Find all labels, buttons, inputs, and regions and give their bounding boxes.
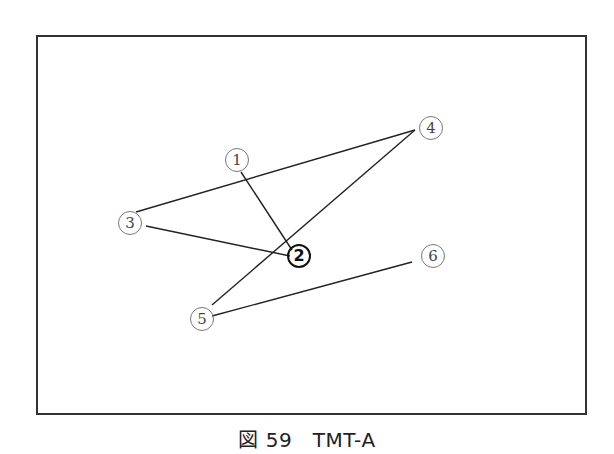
circled-number-5: 5 bbox=[190, 307, 214, 331]
figure-caption: 図 59 TMT-A bbox=[0, 424, 614, 453]
trail-line-1-to-2 bbox=[241, 172, 292, 250]
trail-line-3-to-4 bbox=[136, 130, 415, 212]
circled-number-1: 1 bbox=[225, 148, 249, 172]
trail-diagram bbox=[0, 0, 614, 454]
trail-line-2-to-3 bbox=[146, 226, 290, 256]
tmt-a-figure: 123456 図 59 TMT-A bbox=[0, 0, 614, 454]
circled-number-4: 4 bbox=[419, 116, 443, 140]
trail-lines bbox=[136, 130, 415, 316]
trail-line-5-to-6 bbox=[212, 262, 412, 316]
circled-number-2: 2 bbox=[287, 244, 311, 268]
circled-number-3: 3 bbox=[118, 211, 142, 235]
circled-number-6: 6 bbox=[421, 244, 445, 268]
